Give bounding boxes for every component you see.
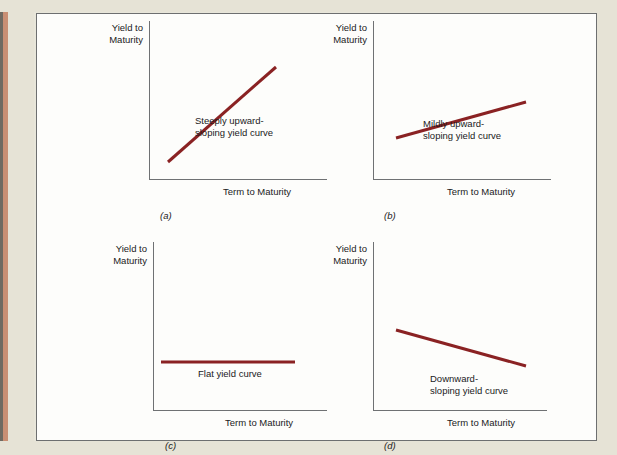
curve-annotation-line2-d: sloping yield curve (430, 385, 508, 397)
curve-annotation-line1-a: Steeply upward- (195, 115, 273, 127)
y-axis-label-line1-b: Yield to (291, 22, 367, 34)
x-axis-a (149, 179, 327, 180)
y-axis-b (373, 21, 374, 179)
curve-annotation-line1-c: Flat yield curve (198, 368, 262, 380)
panel-caption-c: (c) (165, 440, 176, 451)
y-axis-label-b: Yield to Maturity (291, 22, 367, 46)
x-axis-label-d: Term to Maturity (447, 417, 515, 428)
page-margin-bottom (0, 441, 617, 455)
page-margin-right (597, 0, 617, 455)
y-axis-label-line1-a: Yield to (67, 22, 143, 34)
panel-caption-d: (d) (384, 440, 396, 451)
curve-annotation-c: Flat yield curve (198, 368, 262, 380)
y-axis-label-c: Yield to Maturity (71, 243, 147, 267)
y-axis-label-line1-d: Yield to (291, 243, 367, 255)
x-axis-d (373, 410, 547, 411)
curve-annotation-line2-a: sloping yield curve (195, 127, 273, 139)
curve-annotation-line1-b: Mildly upward- (423, 118, 501, 130)
y-axis-label-line2-a: Maturity (67, 34, 143, 46)
x-axis-b (373, 179, 551, 180)
panel-caption-a: (a) (160, 210, 172, 221)
y-axis-d (373, 242, 374, 410)
page-margin-top (0, 0, 617, 12)
x-axis-label-b: Term to Maturity (447, 186, 515, 197)
panel-caption-b: (b) (384, 210, 396, 221)
y-axis-label-a: Yield to Maturity (67, 22, 143, 46)
y-axis-label-line2-b: Maturity (291, 34, 367, 46)
curve-annotation-line2-b: sloping yield curve (423, 130, 501, 142)
curve-annotation-line1-d: Downward- (430, 373, 508, 385)
y-axis-label-d: Yield to Maturity (291, 243, 367, 267)
x-axis-c (153, 410, 327, 411)
y-axis-label-line2-c: Maturity (71, 255, 147, 267)
chart-panel-c: Yield to Maturity Flat yield curve Term … (37, 228, 327, 442)
chart-panel-d: Yield to Maturity Downward- sloping yiel… (327, 228, 598, 442)
page-margin-left (8, 0, 34, 455)
x-axis-label-a: Term to Maturity (223, 186, 291, 197)
scanned-page: Yield to Maturity Steeply upward- slopin… (0, 0, 617, 455)
curve-annotation-b: Mildly upward- sloping yield curve (423, 118, 501, 142)
y-axis-a (149, 21, 150, 179)
y-axis-label-line2-d: Maturity (291, 255, 367, 267)
chart-panel-b: Yield to Maturity Mildly upward- sloping… (327, 14, 598, 228)
y-axis-label-line1-c: Yield to (71, 243, 147, 255)
curve-annotation-a: Steeply upward- sloping yield curve (195, 115, 273, 139)
curve-annotation-d: Downward- sloping yield curve (430, 373, 508, 397)
chart-panel-a: Yield to Maturity Steeply upward- slopin… (37, 14, 327, 228)
y-axis-c (153, 242, 154, 410)
x-axis-label-c: Term to Maturity (225, 417, 293, 428)
figure-frame: Yield to Maturity Steeply upward- slopin… (36, 13, 597, 441)
